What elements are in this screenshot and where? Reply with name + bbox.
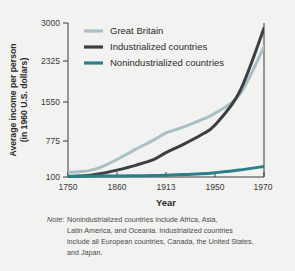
legend-label-great-britain: Great Britain (110, 25, 163, 36)
x-tick-label-1860: 1860 (108, 182, 127, 192)
note-line-2: Latin America, and Oceania. Industrializ… (67, 226, 233, 235)
note-line-3: include all European countries, Canada, … (67, 237, 254, 246)
income-growth-line-chart: 3000 2325 1550 775 100 1750 1860 1913 19… (0, 0, 295, 271)
y-tick-label-1550: 1550 (41, 97, 60, 107)
x-axis-title: Year (156, 197, 176, 208)
note-line-4: and Japan. (67, 248, 103, 257)
chart-figure: 3000 2325 1550 775 100 1750 1860 1913 19… (0, 0, 295, 271)
y-axis-title-line1: Average income per person (8, 44, 18, 157)
note-prefix: Note: (47, 215, 64, 224)
y-tick-label-100: 100 (46, 172, 60, 182)
chart-legend: Great Britain Industrialized countries N… (84, 25, 224, 68)
figure-note: Note: Nonindustrialized countries includ… (47, 215, 254, 257)
y-tick-label-3000: 3000 (41, 18, 60, 28)
y-tick-label-2325: 2325 (41, 56, 60, 66)
y-tick-label-775: 775 (46, 136, 60, 146)
x-tick-label-1750: 1750 (59, 182, 78, 192)
x-tick-label-1913: 1913 (157, 182, 176, 192)
note-line-1: Nonindustrialized countries include Afri… (67, 215, 218, 224)
legend-label-nonindustrialized-countries: Nonindustrialized countries (110, 57, 224, 68)
legend-label-industrialized-countries: Industrialized countries (110, 41, 207, 52)
y-axis-title-line2: (in 1960 U.S. dollars) (19, 58, 29, 143)
x-tick-label-1950: 1950 (206, 182, 225, 192)
x-tick-label-1970: 1970 (254, 182, 273, 192)
